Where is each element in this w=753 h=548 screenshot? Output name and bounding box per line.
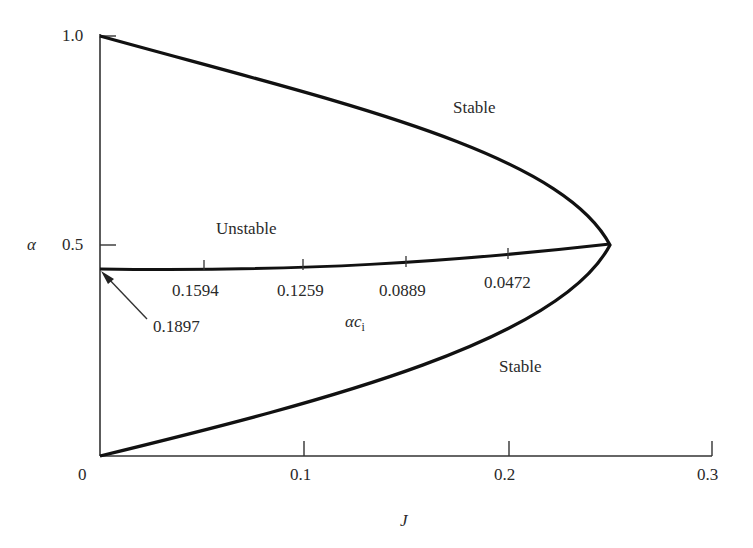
y-axis-label: α — [27, 236, 36, 253]
max-growth-curve — [100, 244, 610, 270]
x-tick-label-03: 0.3 — [697, 466, 718, 483]
curve-point-label-2: 0.1259 — [277, 282, 324, 299]
x-axis-label: J — [400, 512, 408, 529]
region-label-stable-lower: Stable — [499, 358, 542, 375]
curve-point-label-3: 0.0889 — [379, 282, 426, 299]
curve-point-label-4: 0.0472 — [484, 274, 531, 291]
arrow-line — [106, 276, 147, 319]
chart-canvas — [0, 0, 753, 548]
x-tick-label-02: 0.2 — [494, 466, 515, 483]
curve-label-alpha-ci: αci — [345, 313, 365, 333]
y-tick-label-1: 1.0 — [62, 27, 83, 44]
arrow-value-label: 0.1897 — [153, 318, 200, 335]
region-label-stable-upper: Stable — [453, 99, 496, 116]
neutral-curve-full — [100, 36, 610, 456]
region-label-unstable: Unstable — [216, 220, 276, 237]
x-tick-label-0: 0 — [78, 466, 87, 483]
curve-label-sub: i — [361, 320, 364, 334]
y-tick-label-05: 0.5 — [62, 236, 83, 253]
curve-label-alpha: α — [345, 312, 354, 331]
x-tick-label-01: 0.1 — [290, 466, 311, 483]
curve-point-label-1: 0.1594 — [172, 282, 219, 299]
